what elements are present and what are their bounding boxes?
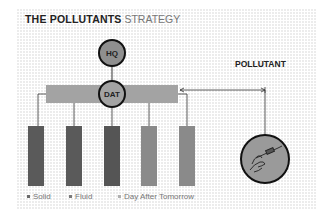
bar-5 bbox=[179, 126, 195, 186]
legend-swatch-fluid bbox=[69, 195, 72, 198]
legend-item-solid: Solid bbox=[27, 192, 51, 201]
connector-1 bbox=[38, 94, 46, 126]
dat-node: DAT bbox=[99, 81, 125, 107]
bar-1 bbox=[28, 126, 44, 186]
dat-label: DAT bbox=[104, 90, 120, 99]
bar-4 bbox=[141, 126, 157, 186]
double-arrow-icon bbox=[180, 87, 265, 93]
pollutant-node bbox=[241, 135, 289, 183]
org-diagram: HQ DAT bbox=[0, 0, 329, 219]
legend-swatch-solid bbox=[27, 195, 30, 198]
hq-node: HQ bbox=[99, 40, 125, 66]
legend-item-fluid: Fluid bbox=[69, 192, 92, 201]
legend-label-day-after-tomorrow: Day After Tomorrow bbox=[124, 192, 194, 201]
legend-label-solid: Solid bbox=[33, 192, 51, 201]
hq-label: HQ bbox=[106, 49, 118, 58]
bar-3 bbox=[104, 126, 120, 186]
legend-label-fluid: Fluid bbox=[75, 192, 92, 201]
legend-swatch-day-after-tomorrow bbox=[118, 195, 121, 198]
legend-item-day-after-tomorrow: Day After Tomorrow bbox=[118, 192, 194, 201]
bar-2 bbox=[66, 126, 82, 186]
connector-5 bbox=[178, 94, 187, 126]
